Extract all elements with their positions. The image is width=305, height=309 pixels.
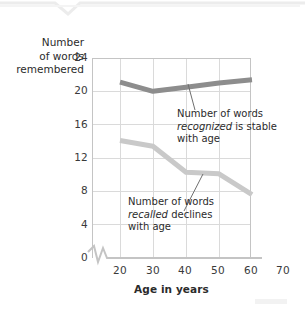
- x-tick-70: 70: [270, 265, 296, 276]
- y-tick-16: 16: [62, 119, 88, 130]
- x-axis-ticks: 20 30 40 50 60 70: [0, 265, 305, 279]
- page-edge-artifact-bottom: [0, 293, 305, 309]
- annotation-recognized-line2: recognized is stable: [177, 121, 301, 134]
- page-edge-artifact-top: [0, 0, 305, 16]
- x-tick-20: 20: [107, 265, 133, 276]
- x-tick-40: 40: [172, 265, 198, 276]
- x-tick-60: 60: [238, 265, 264, 276]
- annotation-recognized: Number of words recognized is stable wit…: [177, 108, 301, 146]
- annotation-recalled-line3: with age: [128, 221, 240, 234]
- y-tick-12: 12: [62, 152, 88, 163]
- y-tick-24: 24: [62, 52, 88, 63]
- x-tick-50: 50: [205, 265, 231, 276]
- y-tick-20: 20: [62, 85, 88, 96]
- chart-figure: Number of words remembered 0 4 8 12 16 2…: [0, 0, 305, 309]
- annotation-recalled-line1: Number of words: [128, 196, 240, 209]
- x-tick-30: 30: [140, 265, 166, 276]
- annotation-recognized-line3: with age: [177, 133, 301, 146]
- annotation-recalled-line2: recalled declines: [128, 209, 240, 222]
- y-tick-8: 8: [62, 185, 88, 196]
- annotation-recognized-emphasis: recognized: [177, 121, 232, 132]
- annotation-recognized-line2-rest: is stable: [232, 121, 277, 132]
- annotation-recalled-line2-rest: declines: [168, 209, 212, 220]
- annotation-recognized-line1: Number of words: [177, 108, 301, 121]
- annotation-recalled: Number of words recalled declines with a…: [128, 196, 240, 234]
- x-axis-title: Age in years: [92, 283, 251, 295]
- annotation-recalled-emphasis: recalled: [128, 209, 168, 220]
- y-tick-4: 4: [62, 219, 88, 230]
